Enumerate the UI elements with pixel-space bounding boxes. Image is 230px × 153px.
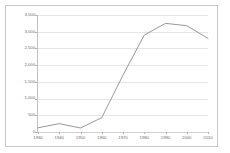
line-series-path: [38, 23, 208, 128]
x-axis-tick-label: 1970: [118, 136, 127, 140]
y-axis-tick-mark: [35, 82, 37, 83]
line-series-chart: [38, 15, 208, 132]
y-axis-tick-mark: [35, 15, 37, 16]
x-axis-tick-mark: [123, 132, 124, 134]
y-axis-tick-label: 1,500: [24, 80, 35, 84]
x-axis-tick-mark: [59, 132, 60, 134]
x-axis-tick-label: 1940: [55, 136, 64, 140]
x-axis-tick-label: 2000: [182, 136, 191, 140]
x-axis-tick-mark: [81, 132, 82, 134]
y-axis-tick-mark: [35, 32, 37, 33]
x-axis-tick-mark: [144, 132, 145, 134]
chart-plot-wrapper: 05001,0001,5002,0002,5003,0003,500 19301…: [6, 6, 219, 148]
x-axis-tick-labels: 193019401950196019701980199020002010: [38, 135, 208, 145]
x-axis-tick-mark: [187, 132, 188, 134]
x-axis-tick-label: 1950: [76, 136, 85, 140]
x-axis-tick-label: 1930: [33, 136, 42, 140]
y-axis-tick-mark: [35, 65, 37, 66]
x-axis-tick-mark: [166, 132, 167, 134]
y-axis-tick-label: 3,000: [24, 30, 35, 34]
y-axis-tick-label: 3,500: [24, 13, 35, 17]
x-axis-tick-label: 1960: [97, 136, 106, 140]
y-axis-tick-label: 2,000: [24, 63, 35, 67]
x-axis-tick-mark: [38, 132, 39, 134]
y-axis-tick-labels: 05001,0001,5002,0002,5003,0003,500: [6, 15, 35, 132]
y-axis-tick-mark: [35, 115, 37, 116]
x-axis-tick-mark: [102, 132, 103, 134]
y-axis-tick-mark: [35, 99, 37, 100]
y-axis-tick-label: 500: [28, 113, 35, 117]
x-axis-tick-mark: [208, 132, 209, 134]
y-axis-tick-label: 1,000: [24, 96, 35, 100]
x-axis-tick-label: 1990: [161, 136, 170, 140]
x-axis-tick-label: 1980: [140, 136, 149, 140]
y-axis-tick-mark: [35, 132, 37, 133]
chart-frame: 05001,0001,5002,0002,5003,0003,500 19301…: [5, 5, 218, 147]
y-axis-tick-label: 2,500: [24, 46, 35, 50]
x-axis-tick-label: 2010: [203, 136, 212, 140]
y-axis-tick-mark: [35, 48, 37, 49]
